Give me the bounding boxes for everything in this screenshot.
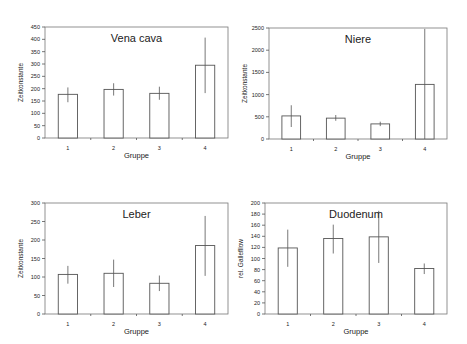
y-tick-label: 50 <box>34 293 40 299</box>
y-axis-label: Zeitkonstante <box>17 239 24 278</box>
y-tick-label: 0 <box>261 136 264 142</box>
y-tick-label: 100 <box>31 110 40 116</box>
y-tick-label: 200 <box>31 237 40 243</box>
y-tick-label: 200 <box>31 86 40 92</box>
y-axis-label: Zeitkonstante <box>17 63 24 102</box>
y-tick-label: 160 <box>251 222 260 228</box>
y-tick-label: 140 <box>251 233 260 239</box>
x-tick-label: 2 <box>112 321 115 327</box>
chart-title: Duodenum <box>329 208 383 220</box>
y-axis-label: Zeitkonstante <box>241 64 248 103</box>
bar <box>104 89 123 138</box>
y-tick-label: 20 <box>254 300 260 306</box>
y-tick-label: 150 <box>31 98 40 104</box>
bar <box>150 93 169 138</box>
y-axis-label: rel. Gallefllow <box>237 239 244 278</box>
y-tick-label: 50 <box>34 123 40 129</box>
y-tick-label: 0 <box>37 135 40 141</box>
y-tick-label: 250 <box>31 73 40 79</box>
y-tick-label: 450 <box>31 24 40 30</box>
x-tick-label: 2 <box>112 145 115 151</box>
y-tick-label: 0 <box>37 311 40 317</box>
x-tick-label: 2 <box>334 146 337 152</box>
y-tick-label: 80 <box>254 267 260 273</box>
y-tick-label: 300 <box>31 200 40 206</box>
y-tick-label: 60 <box>254 278 260 284</box>
x-axis-label: Gruppe <box>345 152 370 161</box>
chart-niere: 050010001500200025001234NiereGruppeZeitk… <box>241 25 447 161</box>
x-tick-label: 3 <box>158 145 161 151</box>
x-tick-label: 1 <box>66 145 69 151</box>
x-axis-label: Gruppe <box>124 151 149 160</box>
x-tick-label: 3 <box>377 321 380 327</box>
y-tick-label: 100 <box>31 274 40 280</box>
y-tick-label: 100 <box>251 256 260 262</box>
x-tick-label: 4 <box>204 321 207 327</box>
x-tick-label: 2 <box>332 321 335 327</box>
chart-title: Vena cava <box>111 32 163 44</box>
chart-figure: 0501001502002503003504004501234Vena cava… <box>0 0 467 344</box>
x-tick-label: 1 <box>286 321 289 327</box>
chart-title: Leber <box>122 208 150 220</box>
y-tick-label: 400 <box>31 36 40 42</box>
chart-vena-cava: 0501001502002503003504004501234Vena cava… <box>17 24 228 160</box>
y-tick-label: 300 <box>31 61 40 67</box>
x-axis-label: Gruppe <box>343 327 368 336</box>
bar <box>326 118 345 139</box>
bar <box>415 268 434 314</box>
y-tick-label: 200 <box>251 200 260 206</box>
chart-title: Niere <box>345 33 371 45</box>
x-tick-label: 1 <box>66 321 69 327</box>
y-tick-label: 0 <box>257 311 260 317</box>
y-tick-label: 1000 <box>252 92 264 98</box>
x-tick-label: 4 <box>204 145 207 151</box>
y-tick-label: 2000 <box>252 47 264 53</box>
x-axis-label: Gruppe <box>124 327 149 336</box>
y-tick-label: 2500 <box>252 25 264 31</box>
x-tick-label: 3 <box>158 321 161 327</box>
y-tick-label: 250 <box>31 219 40 225</box>
y-tick-label: 500 <box>255 114 264 120</box>
y-tick-label: 350 <box>31 49 40 55</box>
chart-leber: 0501001502002503001234LeberGruppeZeitkon… <box>17 200 228 336</box>
y-tick-label: 150 <box>31 256 40 262</box>
y-tick-label: 1500 <box>252 69 264 75</box>
bar <box>371 124 390 139</box>
y-tick-label: 180 <box>251 211 260 217</box>
y-tick-label: 120 <box>251 244 260 250</box>
chart-duodenum: 0204060801001201401601802001234DuodenumG… <box>237 200 447 336</box>
x-tick-label: 4 <box>423 321 426 327</box>
y-tick-label: 40 <box>254 289 260 295</box>
x-tick-label: 3 <box>379 146 382 152</box>
x-tick-label: 1 <box>290 146 293 152</box>
x-tick-label: 4 <box>423 146 426 152</box>
